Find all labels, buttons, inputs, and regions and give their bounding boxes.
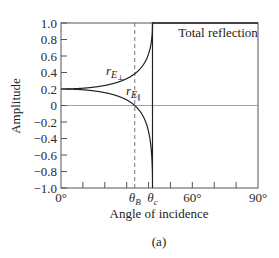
y-tick-label: 0.6 [41,49,58,64]
reflection-amplitude-chart: 1.00.80.60.40.20−0.2−0.4−0.6−0.8−1.0 0°θ… [0,0,279,258]
y-tick-label: −0.2 [33,115,57,130]
y-tick-label: 0.8 [41,32,57,47]
x-tick-label: 60° [183,190,201,205]
y-axis-ticks: 1.00.80.60.40.20−0.2−0.4−0.6−0.8−1.0 [33,16,67,196]
figure-caption: (a) [152,234,166,249]
y-tick-label: −0.8 [33,164,57,179]
x-tick-label: 0° [55,190,67,205]
y-axis-title: Amplitude [8,78,23,134]
svg-text:rE⊥: rE⊥ [106,63,124,82]
svg-text:rE∥: rE∥ [126,83,140,102]
reference-lines [61,23,258,188]
y-tick-label: 0.2 [41,82,57,97]
r-perp-label: rE⊥ [106,63,124,82]
y-tick-label: 1.0 [41,16,57,31]
y-tick-label: −0.4 [33,131,57,146]
x-axis-ticks: 0°θBθc60°90° [55,182,267,207]
x-tick-label: 90° [249,190,267,205]
x-tick-label: θB [129,190,141,207]
x-axis-title: Angle of incidence [110,206,209,221]
total-reflection-label: Total reflection [178,25,258,40]
x-tick-label: θc [147,190,157,207]
y-tick-label: −0.6 [33,148,57,163]
r-par-label: rE∥ [126,83,140,102]
y-tick-label: 0.4 [41,65,58,80]
y-tick-label: −1.0 [33,181,57,196]
y-tick-label: 0 [51,98,58,113]
